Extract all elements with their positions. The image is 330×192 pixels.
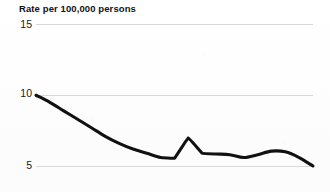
data-line-rate <box>36 95 313 166</box>
plot-area <box>0 0 330 192</box>
data-series-group <box>36 95 313 166</box>
gridlines-group <box>36 25 313 167</box>
chart-figure: Rate per 100,000 persons 15 10 5 <box>0 0 330 192</box>
